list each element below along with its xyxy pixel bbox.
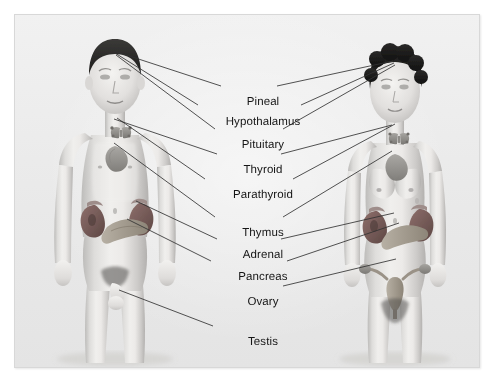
label-testis[interactable]: Testis [248, 336, 278, 348]
label-thyroid[interactable]: Thyroid [243, 164, 282, 176]
label-adrenal[interactable]: Adrenal [243, 249, 283, 261]
diagram-stage: Figure: The endocrine system [0, 0, 494, 378]
male-figure-art [54, 39, 176, 366]
label-pineal[interactable]: Pineal [247, 96, 280, 108]
illustration-panel: Pineal Hypothalamus Pituitary Thyroid Pa… [14, 14, 480, 368]
label-pituitary[interactable]: Pituitary [242, 139, 284, 151]
female-figure-art [339, 43, 451, 366]
label-hypothalamus[interactable]: Hypothalamus [226, 116, 301, 128]
caption-sliver: Figure: The endocrine system [18, 0, 163, 7]
label-pancreas[interactable]: Pancreas [238, 271, 287, 283]
label-ovary[interactable]: Ovary [247, 296, 278, 308]
label-thymus[interactable]: Thymus [242, 227, 284, 239]
label-parathyroid[interactable]: Parathyroid [233, 189, 293, 201]
